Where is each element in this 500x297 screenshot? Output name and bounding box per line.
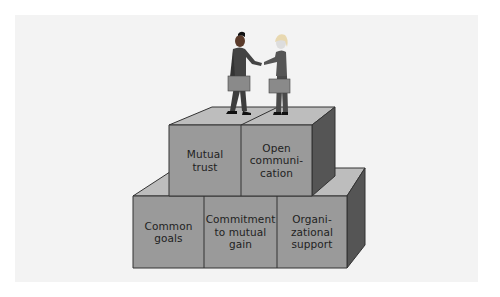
block-label-line: zational <box>291 226 333 239</box>
block-organizational-support: Organi- zational support <box>277 196 347 268</box>
block-common-goals: Common goals <box>133 196 204 268</box>
block-label-line: gain <box>206 238 276 251</box>
block-label-line: communi- <box>250 154 303 167</box>
handshake-figures-icon <box>226 32 290 115</box>
block-label-line: trust <box>187 161 223 174</box>
block-label-line: Commitment <box>206 213 276 226</box>
upper-tier-top-face <box>169 107 335 125</box>
block-label-line: cation <box>250 167 303 180</box>
block-mutual-trust: Mutual trust <box>169 125 241 196</box>
block-label-line: Open <box>250 142 303 155</box>
block-label-line: Common <box>145 220 193 233</box>
block-commitment-to-mutual-gain: Commitment to mutual gain <box>204 196 277 268</box>
block-label-line: Mutual <box>187 148 223 161</box>
block-label-line: support <box>291 238 333 251</box>
block-open-communication: Open communi- cation <box>241 125 312 196</box>
block-label-line: goals <box>145 232 193 245</box>
block-label-line: to mutual <box>206 226 276 239</box>
block-label-line: Organi- <box>291 213 333 226</box>
